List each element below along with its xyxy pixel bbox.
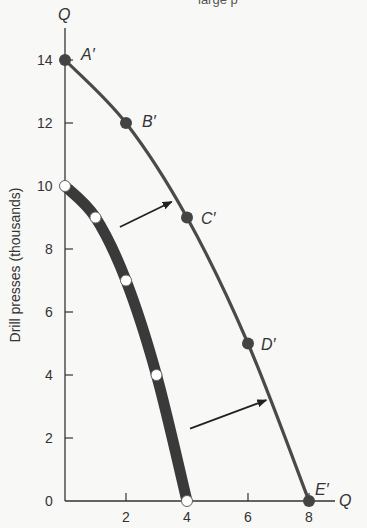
filled-point-marker — [242, 338, 254, 350]
shifted-ppc-curve — [65, 60, 309, 501]
open-point-marker — [182, 496, 193, 507]
open-point-marker — [151, 370, 162, 381]
y-tick-label: 8 — [45, 241, 53, 257]
y-tick-label: 12 — [37, 115, 53, 131]
point-label: A′ — [80, 46, 96, 63]
filled-point-marker — [59, 54, 71, 66]
shift-arrow — [120, 202, 172, 227]
x-tick-label: 4 — [183, 509, 191, 525]
curves — [59, 54, 315, 507]
y-tick-label: 6 — [45, 304, 53, 320]
y-tick-label: 2 — [45, 430, 53, 446]
point-label: D′ — [261, 336, 277, 353]
labels: QQDrill presses (thousands)A′B′C′D′E′ — [7, 6, 351, 509]
filled-point-marker — [181, 212, 193, 224]
x-tick-label: 6 — [244, 509, 252, 525]
y-tick-label: 10 — [37, 178, 53, 194]
original-ppc-curve — [65, 186, 187, 501]
filled-point-marker — [120, 117, 132, 129]
open-point-marker — [121, 275, 132, 286]
point-label: C′ — [201, 210, 217, 227]
x-tick-label: 2 — [122, 509, 130, 525]
y-tick-label: 14 — [37, 52, 53, 68]
production-possibilities-chart: large p 024681012142468 QQDrill presses … — [0, 0, 367, 528]
y-axis-symbol: Q — [58, 6, 70, 23]
x-tick-label: 8 — [305, 509, 313, 525]
open-point-marker — [60, 181, 71, 192]
y-tick-label: 0 — [45, 493, 53, 509]
open-point-marker — [90, 212, 101, 223]
point-label: B′ — [142, 113, 157, 130]
x-axis-symbol: Q — [339, 492, 351, 509]
cropped-caption: large p — [198, 0, 238, 7]
filled-point-marker — [303, 495, 315, 507]
y-tick-label: 4 — [45, 367, 53, 383]
shift-arrow — [190, 400, 266, 428]
y-axis-label: Drill presses (thousands) — [7, 188, 23, 343]
point-label: E′ — [315, 481, 330, 498]
